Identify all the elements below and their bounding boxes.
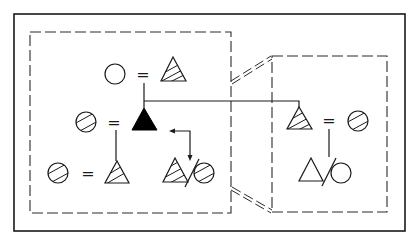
male-nephew-icon xyxy=(299,158,323,181)
male-grandfather-hatched-icon xyxy=(160,57,190,83)
female-grandmother-icon xyxy=(105,64,125,84)
male-son-hatched-icon xyxy=(104,161,130,185)
female-wife-hatched-icon xyxy=(74,112,100,132)
sibling-line xyxy=(144,101,299,108)
male-brother-hatched-icon xyxy=(286,107,316,132)
box-connector-top xyxy=(231,56,272,84)
marriage-sign: = xyxy=(107,113,120,132)
male-divorced-hatched-icon xyxy=(160,158,190,184)
female-wife-bottom-hatched-icon xyxy=(46,163,72,183)
female-brother-wife-hatched-icon xyxy=(346,111,372,131)
female-nephew-ex-icon xyxy=(331,163,351,183)
marriage-sign: = xyxy=(322,111,335,130)
reference-arrow xyxy=(169,129,193,162)
box-connector-bottom xyxy=(231,187,272,213)
outer-frame xyxy=(14,14,405,231)
kinship-diagram: = = = xyxy=(0,0,418,250)
divorce-slash-icon xyxy=(322,158,336,186)
left-household-box xyxy=(30,32,231,213)
ego-male-filled-icon xyxy=(132,108,157,130)
marriage-sign: = xyxy=(81,164,94,183)
marriage-sign: = xyxy=(136,65,149,84)
